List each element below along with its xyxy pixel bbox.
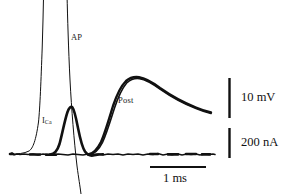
current-scale-label: 200 nA xyxy=(241,136,278,149)
ap-trace-upstroke xyxy=(10,0,44,154)
ica-trace xyxy=(50,107,103,156)
electrophysiology-figure: AP ICa Post 10 mV 200 nA 1 ms xyxy=(0,0,285,196)
ap-trace-repolarization xyxy=(67,0,81,194)
post-trace-b xyxy=(90,78,212,154)
time-scale-label: 1 ms xyxy=(163,172,187,185)
post-trace-a xyxy=(88,77,211,155)
voltage-scale-label: 10 mV xyxy=(241,91,275,104)
